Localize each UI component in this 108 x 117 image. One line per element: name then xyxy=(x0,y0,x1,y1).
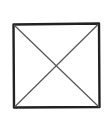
image-placeholder-sketch: Hand-drawn square with an X (two diagona… xyxy=(0,0,108,117)
placeholder-x-box-icon xyxy=(0,0,108,117)
